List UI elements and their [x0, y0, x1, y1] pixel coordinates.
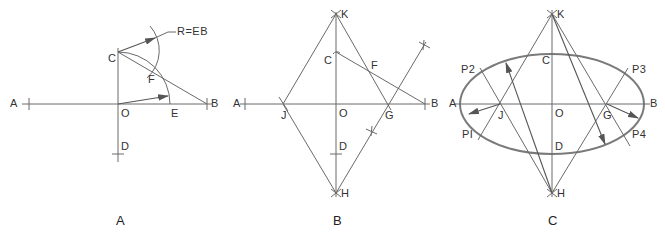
label-point-g: G [385, 110, 394, 121]
label-point-k: K [557, 9, 565, 20]
panel-a-geometry [22, 26, 212, 162]
label-radius: R=EB [177, 26, 208, 37]
label-point-h: H [341, 188, 349, 199]
label-point-h: H [557, 188, 565, 199]
label-point-o: O [555, 108, 564, 119]
label-point-k: K [341, 9, 349, 20]
label-point-c: C [542, 55, 550, 66]
label-point-o: O [121, 108, 130, 119]
caption-c: C [548, 214, 557, 227]
label-point-a: A [449, 98, 457, 109]
label-point-b: B [211, 98, 219, 109]
label-point-d: D [555, 141, 563, 152]
label-point-c: C [108, 53, 116, 64]
label-point-d: D [339, 141, 347, 152]
label-point-a: A [233, 98, 241, 109]
panel-b-geometry [240, 10, 430, 197]
label-point-f: F [148, 74, 155, 85]
label-point-d: D [121, 141, 129, 152]
label-point-p1: PI [462, 129, 473, 140]
label-point-j: J [281, 110, 287, 121]
label-point-j: J [498, 110, 504, 121]
label-point-g: G [603, 110, 612, 121]
caption-a: A [116, 214, 125, 227]
label-point-p2: P2 [461, 64, 475, 75]
label-point-o: O [339, 108, 348, 119]
label-point-p3: P3 [632, 64, 646, 75]
label-point-b: B [650, 98, 658, 109]
label-point-e: E [171, 108, 179, 119]
label-point-p4: P4 [632, 129, 646, 140]
label-point-a: A [10, 98, 18, 109]
label-point-f: F [371, 60, 378, 71]
panel-c-geometry [455, 10, 650, 197]
caption-b: B [333, 214, 342, 227]
label-point-c: C [324, 55, 332, 66]
ellipse-construction-diagram [0, 0, 665, 238]
label-point-b: B [431, 98, 439, 109]
